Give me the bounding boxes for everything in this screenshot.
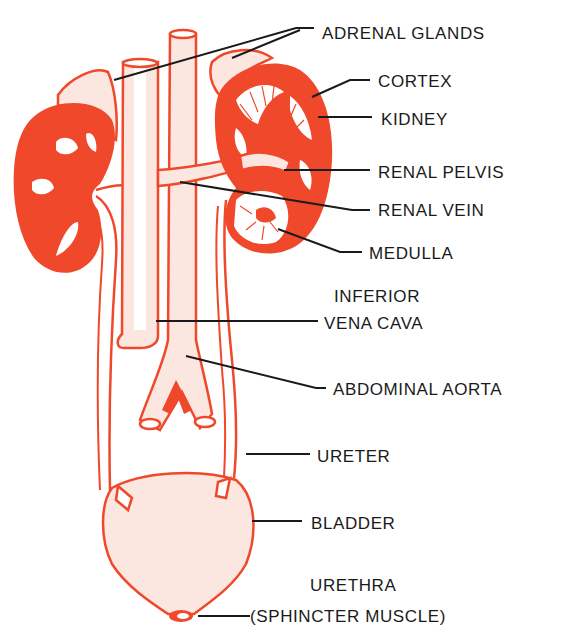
label-renal-pelvis: RENAL PELVIS	[378, 163, 504, 182]
label-vena-cava: VENA CAVA	[324, 314, 423, 333]
label-sphincter-muscle: (SPHINCTER MUSCLE)	[250, 607, 446, 626]
label-kidney: KIDNEY	[381, 110, 448, 129]
urinary-system-diagram: ADRENAL GLANDS CORTEX KIDNEY RENAL PELVI…	[0, 0, 562, 638]
bladder	[103, 473, 253, 622]
inferior-vena-cava	[118, 59, 158, 348]
right-kidney	[210, 50, 332, 478]
label-medulla: MEDULLA	[369, 244, 454, 263]
label-inferior: INFERIOR	[334, 287, 420, 306]
label-cortex: CORTEX	[378, 72, 452, 91]
leader-cortex	[312, 80, 370, 97]
label-renal-vein: RENAL VEIN	[378, 201, 484, 220]
label-adrenal-glands: ADRENAL GLANDS	[322, 24, 485, 43]
left-kidney	[14, 70, 128, 490]
right-ureter	[224, 200, 236, 478]
label-abdominal-aorta: ABDOMINAL AORTA	[333, 380, 502, 399]
label-urethra: URETHRA	[310, 576, 396, 595]
label-ureter: URETER	[317, 447, 391, 466]
label-bladder: BLADDER	[311, 514, 396, 533]
